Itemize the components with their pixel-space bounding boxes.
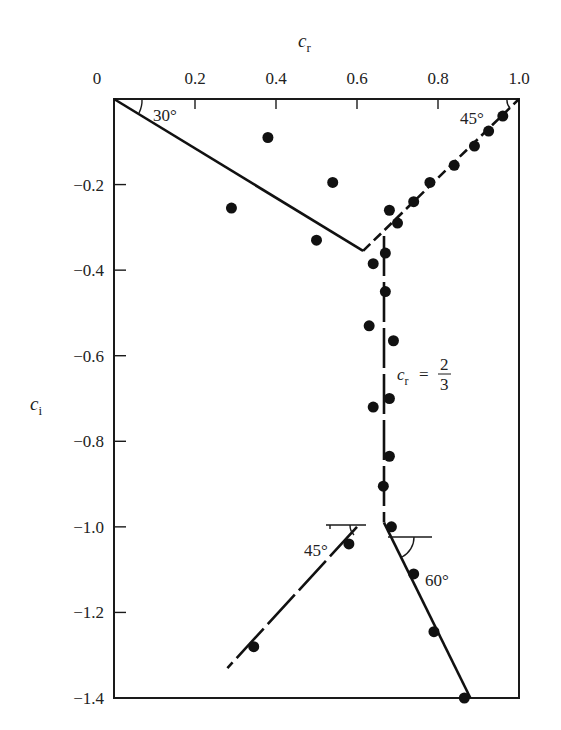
data-point — [364, 320, 375, 331]
data-point — [311, 235, 322, 246]
data-point — [226, 203, 237, 214]
chart: cr ci 00.20.40.60.81.0 −0.2−0.4−0.6−0.8−… — [0, 0, 561, 730]
data-point — [469, 141, 480, 152]
data-point — [384, 393, 395, 404]
y-ticks: −0.2−0.4−0.6−0.8−1.0−1.2−1.4 — [73, 176, 126, 708]
angle-arc-60 — [402, 537, 414, 557]
angle-label-60: 60° — [425, 571, 449, 590]
plot-frame — [114, 99, 519, 698]
series-lines — [114, 99, 519, 698]
data-point — [386, 521, 397, 532]
data-point — [368, 402, 379, 413]
data-point — [428, 626, 439, 637]
data-point — [248, 641, 259, 652]
series-line — [384, 523, 470, 698]
y-tick-label: −0.4 — [73, 261, 104, 280]
x-tick-label: 0.8 — [427, 69, 448, 88]
x-tick-label: 0.4 — [265, 69, 287, 88]
data-point — [380, 286, 391, 297]
data-point — [459, 693, 470, 704]
data-point — [388, 335, 399, 346]
svg-text:cr: cr — [397, 365, 409, 388]
y-tick-label: −1.4 — [73, 689, 104, 708]
x-ticks: 00.20.40.60.81.0 — [93, 69, 530, 109]
svg-text:=: = — [419, 365, 429, 384]
series-line — [227, 527, 357, 668]
data-point — [327, 177, 338, 188]
series-line — [114, 99, 363, 251]
x-tick-label: 0 — [93, 69, 102, 88]
angle-arc-30 — [139, 99, 142, 113]
data-point — [449, 160, 460, 171]
data-point — [262, 132, 273, 143]
svg-text:3: 3 — [440, 375, 449, 394]
data-point — [343, 538, 354, 549]
data-point — [384, 205, 395, 216]
data-point — [483, 126, 494, 137]
data-points — [226, 111, 508, 704]
y-tick-label: −1.0 — [73, 518, 104, 537]
data-point — [368, 258, 379, 269]
data-point — [384, 451, 395, 462]
data-point — [497, 111, 508, 122]
x-tick-label: 0.6 — [346, 69, 367, 88]
angle-label-45-bottom: 45° — [304, 541, 328, 560]
vline-label: cr = 2 3 — [397, 355, 451, 394]
y-tick-label: −0.8 — [73, 432, 104, 451]
data-point — [378, 481, 389, 492]
data-point — [408, 568, 419, 579]
series-line — [363, 99, 519, 251]
angle-arc-45-top — [507, 99, 510, 108]
angle-label-45-top: 45° — [460, 109, 484, 128]
data-point — [392, 218, 403, 229]
y-tick-label: −0.2 — [73, 176, 104, 195]
y-tick-label: −0.6 — [73, 347, 104, 366]
x-tick-label: 0.2 — [184, 69, 205, 88]
x-tick-label: 1.0 — [508, 69, 529, 88]
angle-label-30: 30° — [153, 106, 177, 125]
svg-text:2: 2 — [440, 355, 449, 374]
data-point — [424, 177, 435, 188]
data-point — [408, 196, 419, 207]
y-axis-title: ci — [30, 393, 42, 418]
data-point — [380, 248, 391, 259]
y-tick-label: −1.2 — [73, 603, 104, 622]
x-axis-title: cr — [298, 30, 311, 55]
